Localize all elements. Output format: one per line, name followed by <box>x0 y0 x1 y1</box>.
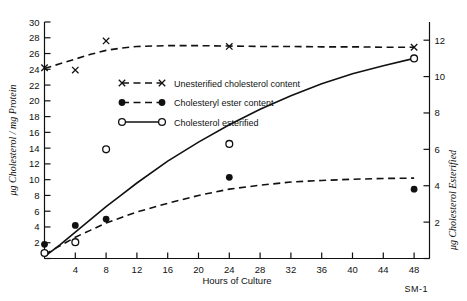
legend-item-0: Unesterified cholesterol content <box>119 79 301 89</box>
left-tick-label: 24 <box>29 64 40 75</box>
x-tick-label: 28 <box>255 264 266 275</box>
data-point <box>103 38 109 44</box>
legend-item-1: Cholesteryl ester content <box>119 98 274 108</box>
left-tick-label: 4 <box>34 221 39 232</box>
legend-item-2: Cholesterol esterified <box>119 118 259 128</box>
data-point <box>103 216 110 223</box>
data-point <box>226 174 233 181</box>
legend: Unesterified cholesterol contentCholeste… <box>119 79 301 128</box>
x-tick-label: 20 <box>193 264 204 275</box>
series-line-1 <box>45 178 415 254</box>
figure-corner-label: SM-1 <box>404 284 428 294</box>
x-tick-label: 4 <box>73 264 78 275</box>
data-point <box>226 140 233 147</box>
left-tick-label: 2 <box>34 237 39 248</box>
left-tick-label: 18 <box>29 111 40 122</box>
y2-axis-label: μg Cholesterol Esterified <box>447 149 458 251</box>
x-tick-label: 16 <box>162 264 173 275</box>
legend-marker <box>119 119 126 126</box>
x-axis-label: Hours of Culture <box>202 275 271 286</box>
legend-label: Unesterified cholesterol content <box>174 79 301 89</box>
figure-container: 24681012141618202224262830 24681012 4812… <box>0 0 467 301</box>
left-tick-label: 16 <box>29 127 40 138</box>
left-tick-label: 12 <box>29 158 40 169</box>
left-tick-label: 6 <box>34 206 39 217</box>
right-tick-label: 4 <box>435 180 440 191</box>
legend-marker <box>159 119 166 126</box>
x-axis-ticks: 4812162024283236404448 <box>73 253 420 275</box>
data-series-layer <box>41 38 417 257</box>
data-point <box>41 241 48 248</box>
left-tick-label: 30 <box>29 17 40 28</box>
left-tick-label: 10 <box>29 174 40 185</box>
x-tick-label: 32 <box>286 264 297 275</box>
left-tick-label: 8 <box>34 190 39 201</box>
data-point <box>411 55 418 62</box>
right-axis-ticks: 24681012 <box>424 35 446 259</box>
plot-frame <box>45 22 430 259</box>
left-tick-label: 28 <box>29 32 40 43</box>
series-line-0 <box>45 46 415 69</box>
data-point <box>72 67 78 73</box>
right-tick-label: 2 <box>435 217 440 228</box>
left-tick-label: 20 <box>29 95 40 106</box>
legend-label: Cholesteryl ester content <box>174 98 274 108</box>
legend-marker <box>159 99 166 106</box>
data-point <box>72 239 79 246</box>
data-point <box>411 186 418 193</box>
right-tick-label: 8 <box>435 107 440 118</box>
x-tick-label: 24 <box>224 264 235 275</box>
right-tick-label: 6 <box>435 144 440 155</box>
x-tick-label: 8 <box>103 264 108 275</box>
right-tick-label: 12 <box>435 35 446 46</box>
data-point <box>41 250 48 257</box>
legend-label: Cholesterol esterified <box>174 118 259 128</box>
data-point <box>103 146 110 153</box>
legend-marker <box>119 99 126 106</box>
x-tick-label: 40 <box>347 264 358 275</box>
chart-canvas: 24681012141618202224262830 24681012 4812… <box>0 0 467 301</box>
x-tick-label: 36 <box>316 264 327 275</box>
x-tick-label: 48 <box>409 264 420 275</box>
data-point <box>72 222 79 229</box>
right-tick-label: 10 <box>435 71 446 82</box>
left-tick-label: 14 <box>29 143 40 154</box>
y-axis-label: μg Cholesterol / mg Protein <box>7 85 18 197</box>
left-axis-ticks: 24681012141618202224262830 <box>29 17 51 259</box>
series-0 <box>41 38 417 74</box>
x-tick-label: 12 <box>132 264 143 275</box>
x-tick-label: 44 <box>378 264 389 275</box>
left-tick-label: 26 <box>29 48 40 59</box>
left-tick-label: 22 <box>29 80 40 91</box>
